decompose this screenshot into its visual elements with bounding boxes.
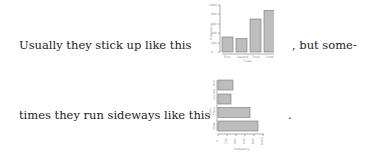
svg-text:0: 0 xyxy=(211,50,213,54)
sentence-part-3: times they run sideways like this xyxy=(19,108,210,122)
sentence-part-4: . xyxy=(288,108,292,122)
bar-second xyxy=(236,39,247,53)
sentence-part-2: , but some- xyxy=(292,38,357,52)
svg-text:Crew: Crew xyxy=(266,55,274,59)
bar-first xyxy=(222,37,233,52)
svg-text:400: 400 xyxy=(233,138,237,144)
svg-text:400: 400 xyxy=(211,31,217,35)
x-axis-label: Class xyxy=(244,59,252,63)
svg-text:Third: Third xyxy=(251,55,260,59)
bar-first xyxy=(218,80,233,90)
svg-text:1000: 1000 xyxy=(209,3,217,7)
bar-crew xyxy=(264,11,274,53)
svg-text:1000: 1000 xyxy=(260,137,264,145)
horizontal-bar-chart: Class First Second Third Crew 0 200 400 … xyxy=(208,78,270,153)
svg-text:200: 200 xyxy=(224,138,228,144)
svg-text:First: First xyxy=(212,79,216,86)
svg-text:Crew: Crew xyxy=(212,122,216,130)
svg-text:Third: Third xyxy=(212,107,216,116)
svg-text:First: First xyxy=(224,55,231,59)
sentence-part-1: Usually they stick up like this xyxy=(19,38,191,52)
svg-text:800: 800 xyxy=(211,12,217,16)
bar-second xyxy=(218,94,231,104)
svg-text:0: 0 xyxy=(215,140,219,142)
vertical-bar-chart: Frequency 0 200 400 600 800 1000 First S… xyxy=(208,0,274,66)
svg-text:600: 600 xyxy=(211,22,217,26)
svg-text:200: 200 xyxy=(211,41,217,45)
x-ticks: 0 200 400 600 800 1000 xyxy=(215,134,264,145)
x-axis-label: Frequency xyxy=(234,147,250,151)
bar-third xyxy=(250,19,261,52)
svg-text:600: 600 xyxy=(242,138,246,144)
svg-text:800: 800 xyxy=(251,138,255,144)
svg-text:Second: Second xyxy=(212,89,216,100)
bar-crew xyxy=(218,121,258,131)
bar-third xyxy=(218,108,250,118)
